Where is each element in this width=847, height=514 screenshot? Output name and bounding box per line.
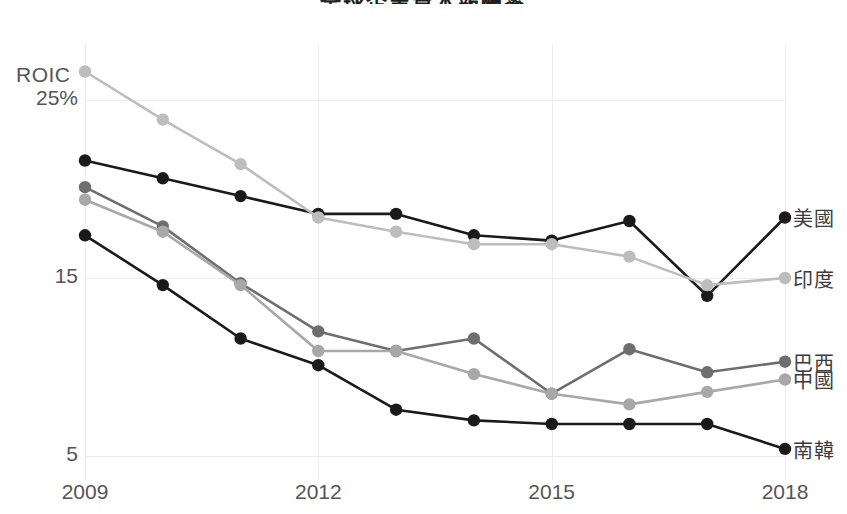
data-point-south-korea[interactable] [234, 332, 246, 344]
x-tick-label: 2012 [295, 480, 342, 504]
x-tick-label: 2009 [62, 480, 109, 504]
data-point-india[interactable] [157, 113, 169, 125]
data-point-usa[interactable] [701, 290, 713, 302]
data-point-china[interactable] [468, 368, 480, 380]
data-point-china[interactable] [234, 279, 246, 291]
data-point-usa[interactable] [779, 211, 791, 223]
data-point-usa[interactable] [157, 172, 169, 184]
data-point-india[interactable] [779, 272, 791, 284]
data-point-south-korea[interactable] [312, 359, 324, 371]
data-point-south-korea[interactable] [623, 418, 635, 430]
data-point-india[interactable] [546, 238, 558, 250]
data-point-india[interactable] [701, 279, 713, 291]
legend-label-usa[interactable]: 美國 [793, 203, 835, 232]
x-tick-label: 2015 [528, 480, 575, 504]
data-point-south-korea[interactable] [157, 279, 169, 291]
data-point-china[interactable] [701, 386, 713, 398]
series-line-south-korea [85, 235, 785, 449]
roic-line-chart: 全球企業資本報酬率 ROIC 25%155 2009201220152018美國… [0, 0, 847, 514]
data-point-china[interactable] [312, 345, 324, 357]
data-point-india[interactable] [390, 226, 402, 238]
data-point-south-korea[interactable] [546, 418, 558, 430]
data-point-south-korea[interactable] [79, 229, 91, 241]
series-line-india [85, 72, 785, 286]
data-point-china[interactable] [390, 345, 402, 357]
x-tick-label: 2018 [762, 480, 809, 504]
data-point-china[interactable] [546, 388, 558, 400]
data-point-brazil[interactable] [312, 325, 324, 337]
data-point-south-korea[interactable] [701, 418, 713, 430]
legend-label-china[interactable]: 中國 [793, 365, 835, 394]
data-point-usa[interactable] [623, 215, 635, 227]
data-point-china[interactable] [157, 226, 169, 238]
data-point-south-korea[interactable] [468, 414, 480, 426]
legend-label-south-korea[interactable]: 南韓 [793, 434, 835, 463]
series-line-china [85, 200, 785, 405]
data-point-usa[interactable] [79, 154, 91, 166]
data-point-china[interactable] [623, 398, 635, 410]
data-point-south-korea[interactable] [390, 404, 402, 416]
data-point-usa[interactable] [234, 190, 246, 202]
data-point-brazil[interactable] [79, 181, 91, 193]
data-point-china[interactable] [79, 194, 91, 206]
data-point-india[interactable] [468, 238, 480, 250]
data-point-brazil[interactable] [779, 356, 791, 368]
data-point-india[interactable] [234, 158, 246, 170]
legend-label-india[interactable]: 印度 [793, 264, 835, 293]
data-point-india[interactable] [623, 250, 635, 262]
data-point-south-korea[interactable] [779, 443, 791, 455]
data-point-china[interactable] [779, 373, 791, 385]
data-point-brazil[interactable] [701, 366, 713, 378]
data-point-india[interactable] [79, 65, 91, 77]
data-point-brazil[interactable] [468, 332, 480, 344]
data-point-india[interactable] [312, 211, 324, 223]
data-point-usa[interactable] [390, 208, 402, 220]
data-point-brazil[interactable] [623, 343, 635, 355]
series-lines-layer [0, 0, 847, 514]
